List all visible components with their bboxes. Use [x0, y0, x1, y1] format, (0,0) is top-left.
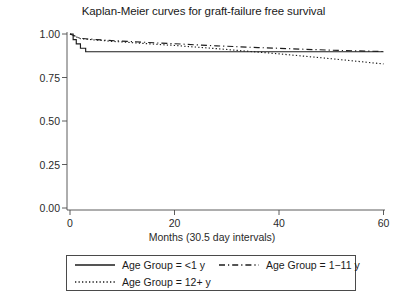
y-tick-label: 0.75	[40, 72, 61, 84]
x-tick-label: 60	[378, 217, 390, 229]
y-tick-label: 0.25	[40, 159, 61, 171]
chart-legend: Age Group = <1 y Age Group = 1−11 y Age …	[66, 255, 356, 291]
y-axis-tick-labels: 1.00 0.75 0.50 0.25 0.00	[40, 28, 61, 214]
legend-swatch-dashed	[217, 260, 261, 270]
x-tick-label: 20	[169, 217, 181, 229]
plot-area: 1.00 0.75 0.50 0.25 0.00 0 20 40 60	[0, 0, 407, 250]
legend-row: Age Group = 12+ y	[67, 273, 355, 290]
legend-label: Age Group = 1−11 y	[266, 259, 360, 271]
y-tick-label: 1.00	[40, 28, 61, 40]
x-tick-label: 0	[67, 217, 73, 229]
legend-label: Age Group = <1 y	[122, 259, 205, 271]
legend-entry-age-12-plus: Age Group = 12+ y	[73, 276, 211, 288]
x-axis-title: Months (30.5 day intervals)	[149, 231, 276, 243]
legend-swatch-solid	[73, 260, 117, 270]
legend-entry-age-1-to-11: Age Group = 1−11 y	[217, 259, 360, 271]
y-axis-ticks	[62, 34, 67, 208]
chart-page: Kaplan-Meier curves for graft-failure fr…	[0, 0, 407, 304]
x-tick-label: 40	[273, 217, 285, 229]
y-tick-label: 0.50	[40, 115, 61, 127]
x-axis-tick-labels: 0 20 40 60	[67, 217, 389, 229]
x-axis-ticks	[70, 210, 384, 215]
legend-label: Age Group = 12+ y	[122, 276, 211, 288]
curve-age-12-plus	[70, 34, 384, 64]
legend-swatch-dotted	[73, 277, 117, 287]
legend-entry-age-under-1: Age Group = <1 y	[73, 259, 205, 271]
y-tick-label: 0.00	[40, 202, 61, 214]
survival-curves	[70, 34, 384, 64]
legend-row: Age Group = <1 y Age Group = 1−11 y	[67, 256, 355, 273]
